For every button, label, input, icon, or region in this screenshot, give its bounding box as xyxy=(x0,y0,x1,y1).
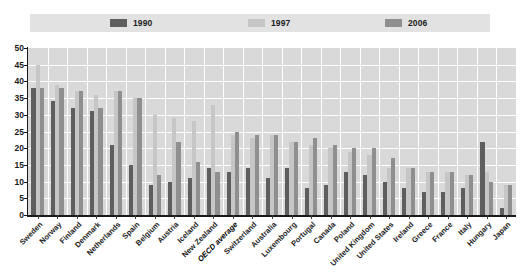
bar-group xyxy=(418,48,438,215)
x-tick-mark xyxy=(311,215,312,219)
x-tick-mark xyxy=(331,215,332,219)
bar-group xyxy=(379,48,399,215)
bar-group xyxy=(360,48,380,215)
y-tick-label: 40 xyxy=(15,77,24,85)
bar-group xyxy=(301,48,321,215)
y-tick-label: 30 xyxy=(15,111,24,119)
x-tick-mark xyxy=(57,215,58,219)
bar-group xyxy=(106,48,126,215)
legend-swatch-1997 xyxy=(248,19,265,27)
bar-group xyxy=(165,48,185,215)
bar-group xyxy=(223,48,243,215)
x-tick-mark xyxy=(506,215,507,219)
bar xyxy=(430,172,434,215)
bar-group xyxy=(67,48,87,215)
x-tick-mark xyxy=(467,215,468,219)
bar xyxy=(411,168,415,215)
x-tick-mark xyxy=(213,215,214,219)
y-tick-label: 25 xyxy=(15,128,24,136)
bar xyxy=(294,142,298,215)
bar-group xyxy=(145,48,165,215)
y-tick-label: 10 xyxy=(15,178,24,186)
x-tick-mark xyxy=(96,215,97,219)
bar xyxy=(40,88,44,215)
bar xyxy=(450,172,454,215)
x-tick-mark xyxy=(135,215,136,219)
x-tick-mark xyxy=(272,215,273,219)
bar xyxy=(489,182,493,215)
plot-area xyxy=(28,48,516,215)
x-tick-mark xyxy=(194,215,195,219)
bar xyxy=(176,142,180,215)
x-axis-labels: SwedenNorwayFinlandDenmarkNetherlandsSpa… xyxy=(0,215,520,280)
bar-group xyxy=(243,48,263,215)
bar xyxy=(157,175,161,215)
legend-item-1997: 1997 xyxy=(248,14,290,32)
bar xyxy=(255,135,259,215)
x-tick-mark xyxy=(292,215,293,219)
x-tick-mark xyxy=(77,215,78,219)
bar xyxy=(118,91,122,215)
legend-swatch-1990 xyxy=(110,19,127,27)
bar xyxy=(274,135,278,215)
bar-group xyxy=(438,48,458,215)
x-tick-mark xyxy=(409,215,410,219)
x-tick-mark xyxy=(252,215,253,219)
bar-group xyxy=(87,48,107,215)
bar xyxy=(333,145,337,215)
legend-item-2006: 2006 xyxy=(385,14,427,32)
bar-group xyxy=(496,48,516,215)
bar xyxy=(391,158,395,215)
y-tick-label: 50 xyxy=(15,44,24,52)
y-tick-label: 20 xyxy=(15,144,24,152)
legend-label-2006: 2006 xyxy=(408,18,427,28)
bar-group xyxy=(399,48,419,215)
chart-legend: 1990 1997 2006 xyxy=(30,14,490,32)
x-tick-mark xyxy=(448,215,449,219)
x-tick-mark xyxy=(487,215,488,219)
bar xyxy=(372,148,376,215)
bar-group xyxy=(477,48,497,215)
bar-group xyxy=(204,48,224,215)
x-tick-mark xyxy=(38,215,39,219)
bar-group xyxy=(184,48,204,215)
x-tick-mark xyxy=(233,215,234,219)
bar xyxy=(79,91,83,215)
bar-group xyxy=(340,48,360,215)
x-tick-mark xyxy=(370,215,371,219)
x-tick-mark xyxy=(155,215,156,219)
y-tick-label: 35 xyxy=(15,94,24,102)
bar-group xyxy=(28,48,48,215)
bar xyxy=(469,175,473,215)
legend-label-1990: 1990 xyxy=(133,18,152,28)
bar xyxy=(215,172,219,215)
bar xyxy=(235,132,239,216)
bar xyxy=(196,162,200,215)
bar-chart: 1990 1997 2006 50454035302520151050 Swed… xyxy=(0,0,520,280)
x-tick-mark xyxy=(428,215,429,219)
legend-label-1997: 1997 xyxy=(271,18,290,28)
legend-swatch-2006 xyxy=(385,19,402,27)
bar-group xyxy=(126,48,146,215)
x-tick-mark xyxy=(174,215,175,219)
bar-group xyxy=(48,48,68,215)
bar xyxy=(313,138,317,215)
bar-group xyxy=(282,48,302,215)
x-tick-mark xyxy=(350,215,351,219)
x-tick-mark xyxy=(116,215,117,219)
legend-item-1990: 1990 xyxy=(110,14,152,32)
bar xyxy=(508,185,512,215)
bar-group xyxy=(457,48,477,215)
y-tick-label: 15 xyxy=(15,161,24,169)
bar-group xyxy=(262,48,282,215)
bar xyxy=(137,98,141,215)
bar xyxy=(59,88,63,215)
x-tick-mark xyxy=(389,215,390,219)
bar-group xyxy=(321,48,341,215)
y-tick-label: 45 xyxy=(15,61,24,69)
bar-groups xyxy=(28,48,516,215)
bar xyxy=(98,108,102,215)
bar xyxy=(352,148,356,215)
